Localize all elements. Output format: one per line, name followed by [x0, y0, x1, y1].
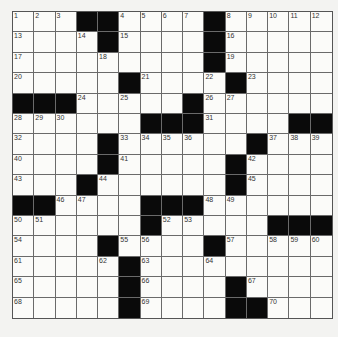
grid-cell[interactable] [56, 73, 77, 93]
grid-cell[interactable]: 11 [289, 12, 310, 32]
grid-cell[interactable] [77, 257, 98, 277]
grid-cell[interactable]: 39 [311, 134, 332, 154]
grid-cell[interactable]: 27 [226, 94, 247, 114]
grid-cell[interactable]: 42 [247, 155, 268, 175]
grid-cell[interactable]: 20 [13, 73, 34, 93]
grid-cell[interactable] [162, 94, 183, 114]
grid-cell[interactable]: 4 [119, 12, 140, 32]
grid-cell[interactable]: 62 [98, 257, 119, 277]
grid-cell[interactable]: 65 [13, 277, 34, 297]
grid-cell[interactable] [77, 53, 98, 73]
grid-cell[interactable] [289, 277, 310, 297]
grid-cell[interactable]: 64 [204, 257, 225, 277]
grid-cell[interactable] [98, 196, 119, 216]
grid-cell[interactable]: 26 [204, 94, 225, 114]
grid-cell[interactable]: 14 [77, 32, 98, 52]
grid-cell[interactable]: 68 [13, 298, 34, 318]
grid-cell[interactable]: 6 [162, 12, 183, 32]
grid-cell[interactable] [311, 298, 332, 318]
grid-cell[interactable] [183, 298, 204, 318]
grid-cell[interactable] [141, 94, 162, 114]
grid-cell[interactable] [311, 94, 332, 114]
grid-cell[interactable]: 34 [141, 134, 162, 154]
grid-cell[interactable]: 10 [268, 12, 289, 32]
grid-cell[interactable] [34, 298, 55, 318]
grid-cell[interactable] [289, 196, 310, 216]
grid-cell[interactable] [268, 175, 289, 195]
grid-cell[interactable] [289, 298, 310, 318]
grid-cell[interactable] [162, 73, 183, 93]
grid-cell[interactable]: 41 [119, 155, 140, 175]
grid-cell[interactable]: 29 [34, 114, 55, 134]
grid-cell[interactable]: 18 [98, 53, 119, 73]
grid-cell[interactable] [226, 216, 247, 236]
grid-cell[interactable] [289, 155, 310, 175]
grid-cell[interactable] [289, 257, 310, 277]
grid-cell[interactable] [311, 73, 332, 93]
grid-cell[interactable] [119, 114, 140, 134]
grid-cell[interactable] [34, 277, 55, 297]
grid-cell[interactable] [34, 236, 55, 256]
grid-cell[interactable] [311, 196, 332, 216]
grid-cell[interactable] [77, 277, 98, 297]
grid-cell[interactable] [34, 134, 55, 154]
grid-cell[interactable] [247, 114, 268, 134]
grid-cell[interactable] [119, 196, 140, 216]
grid-cell[interactable] [141, 53, 162, 73]
grid-cell[interactable] [204, 155, 225, 175]
grid-cell[interactable] [268, 73, 289, 93]
grid-cell[interactable]: 47 [77, 196, 98, 216]
grid-cell[interactable]: 24 [77, 94, 98, 114]
grid-cell[interactable]: 30 [56, 114, 77, 134]
grid-cell[interactable]: 55 [119, 236, 140, 256]
grid-cell[interactable] [56, 216, 77, 236]
grid-cell[interactable] [56, 298, 77, 318]
grid-cell[interactable] [162, 155, 183, 175]
grid-cell[interactable] [34, 32, 55, 52]
grid-cell[interactable] [183, 236, 204, 256]
grid-cell[interactable] [98, 114, 119, 134]
grid-cell[interactable] [247, 32, 268, 52]
grid-cell[interactable] [289, 32, 310, 52]
grid-cell[interactable] [311, 155, 332, 175]
grid-cell[interactable] [56, 53, 77, 73]
grid-cell[interactable] [204, 298, 225, 318]
grid-cell[interactable] [119, 53, 140, 73]
grid-cell[interactable] [204, 134, 225, 154]
grid-cell[interactable] [34, 155, 55, 175]
grid-cell[interactable]: 7 [183, 12, 204, 32]
grid-cell[interactable]: 43 [13, 175, 34, 195]
grid-cell[interactable] [77, 216, 98, 236]
grid-cell[interactable]: 3 [56, 12, 77, 32]
grid-cell[interactable] [56, 277, 77, 297]
grid-cell[interactable] [119, 216, 140, 236]
grid-cell[interactable] [268, 114, 289, 134]
grid-cell[interactable] [183, 175, 204, 195]
grid-cell[interactable] [289, 73, 310, 93]
grid-cell[interactable]: 21 [141, 73, 162, 93]
grid-cell[interactable] [56, 32, 77, 52]
grid-cell[interactable] [98, 73, 119, 93]
grid-cell[interactable] [268, 257, 289, 277]
grid-cell[interactable] [141, 155, 162, 175]
grid-cell[interactable] [162, 236, 183, 256]
grid-cell[interactable] [162, 298, 183, 318]
grid-cell[interactable] [34, 257, 55, 277]
grid-cell[interactable] [289, 94, 310, 114]
grid-cell[interactable]: 23 [247, 73, 268, 93]
grid-cell[interactable]: 60 [311, 236, 332, 256]
grid-cell[interactable]: 40 [13, 155, 34, 175]
grid-cell[interactable] [56, 257, 77, 277]
grid-cell[interactable] [289, 53, 310, 73]
grid-cell[interactable]: 31 [204, 114, 225, 134]
grid-cell[interactable] [34, 175, 55, 195]
grid-cell[interactable] [141, 175, 162, 195]
grid-cell[interactable] [204, 216, 225, 236]
grid-cell[interactable] [247, 257, 268, 277]
grid-cell[interactable]: 58 [268, 236, 289, 256]
grid-cell[interactable]: 28 [13, 114, 34, 134]
grid-cell[interactable] [141, 32, 162, 52]
grid-cell[interactable] [289, 175, 310, 195]
grid-cell[interactable]: 54 [13, 236, 34, 256]
grid-cell[interactable]: 48 [204, 196, 225, 216]
